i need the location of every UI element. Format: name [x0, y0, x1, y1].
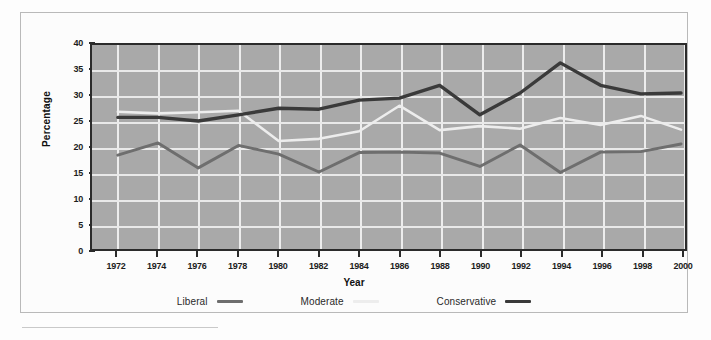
x-tick-mark [277, 251, 279, 257]
plot-area [90, 43, 687, 251]
y-tick-label: 15 [61, 168, 83, 178]
x-tick-mark [520, 251, 522, 257]
x-tick-label: 1988 [430, 261, 449, 271]
figure-card: Percentage 4035302520151050 Year Liberal… [20, 12, 688, 313]
legend-item-moderate[interactable]: Moderate [301, 296, 379, 307]
x-tick-label: 2000 [673, 261, 692, 271]
x-tick-mark [642, 251, 644, 257]
x-tick-label: 1978 [228, 261, 247, 271]
x-tick-mark [115, 251, 117, 257]
x-tick-mark [237, 251, 239, 257]
y-tick-label: 5 [61, 220, 83, 230]
x-tick-label: 1992 [511, 261, 530, 271]
legend-item-liberal[interactable]: Liberal [177, 296, 243, 307]
y-axis: 4035302520151050 [61, 37, 91, 257]
x-tick-mark [156, 251, 158, 257]
x-tick-label: 1994 [552, 261, 571, 271]
x-tick-mark [399, 251, 401, 257]
x-tick-mark [480, 251, 482, 257]
x-tick-mark [358, 251, 360, 257]
series-lines [92, 45, 685, 249]
page-divider [22, 327, 218, 328]
y-tick-label: 25 [61, 116, 83, 126]
x-tick-label: 1996 [592, 261, 611, 271]
x-tick-mark [196, 251, 198, 257]
figure-root: Percentage 4035302520151050 Year Liberal… [0, 0, 711, 340]
x-tick-label: 1998 [633, 261, 652, 271]
y-tick-label: 35 [61, 64, 83, 74]
x-tick-label: 1974 [147, 261, 166, 271]
x-tick-label: 1980 [268, 261, 287, 271]
x-tick-label: 1972 [106, 261, 125, 271]
series-line-liberal [118, 143, 681, 173]
x-tick-mark [561, 251, 563, 257]
legend-swatch-conservative [505, 300, 531, 304]
x-tick-label: 1976 [187, 261, 206, 271]
y-tick-label: 20 [61, 142, 83, 152]
legend-label: Moderate [301, 296, 344, 307]
chart-legend: LiberalModerateConservative [21, 296, 687, 307]
x-axis-label: Year [21, 277, 687, 288]
x-tick-label: 1986 [390, 261, 409, 271]
y-tick-label: 40 [61, 38, 83, 48]
plot-inner [92, 45, 685, 249]
legend-label: Liberal [177, 296, 208, 307]
x-tick-label: 1990 [471, 261, 490, 271]
legend-swatch-moderate [353, 300, 379, 303]
legend-label: Conservative [437, 296, 497, 307]
y-tick-label: 0 [61, 246, 83, 256]
x-tick-mark [601, 251, 603, 257]
y-tick-label: 30 [61, 90, 83, 100]
x-tick-label: 1984 [349, 261, 368, 271]
y-axis-label: Percentage [41, 91, 52, 147]
x-tick-mark [318, 251, 320, 257]
series-line-moderate [118, 106, 681, 141]
y-tick-label: 10 [61, 194, 83, 204]
x-tick-mark [682, 251, 684, 257]
legend-item-conservative[interactable]: Conservative [437, 296, 532, 307]
legend-swatch-liberal [217, 300, 243, 303]
x-tick-label: 1982 [309, 261, 328, 271]
x-tick-mark [439, 251, 441, 257]
